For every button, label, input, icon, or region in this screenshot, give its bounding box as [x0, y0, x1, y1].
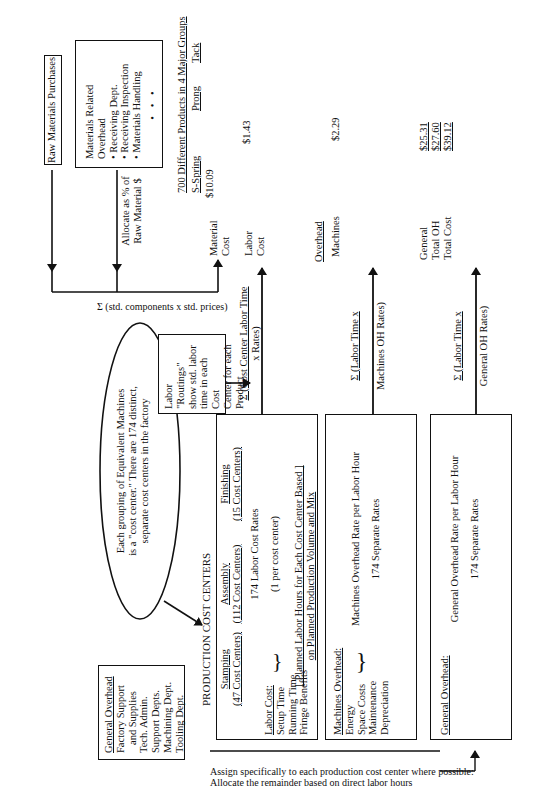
- total-label-total-cost: Total Cost: [442, 217, 454, 260]
- labor-flow-label: Σ (Cost Center Labor Time x Rates): [238, 281, 262, 406]
- general-overhead-item: and Supplies: [127, 672, 139, 753]
- total-value-total-oh: $27.60: [430, 122, 442, 151]
- raw-materials-box: Raw Materials Purchases: [44, 55, 62, 165]
- routings-line: show std. labor: [187, 339, 199, 409]
- sum-materials-label: Σ (std. components x std. prices): [97, 301, 228, 312]
- labor-label-2: Cost: [255, 231, 267, 256]
- general-overhead-item: Tooling Dept.: [174, 672, 186, 753]
- products-heading: 700 Different Products in 4 Major Groups: [176, 16, 188, 193]
- dept-name: Stamping: [219, 629, 231, 709]
- material-cost-value: $10.09: [204, 169, 216, 198]
- routings-line: time in each Cost: [198, 339, 222, 409]
- group-prong: Prong: [190, 86, 202, 111]
- machines-flow-label: Σ (Labor Time x Machines OH Rates): [375, 301, 387, 391]
- brace-icon: }: [272, 649, 283, 674]
- material-label-1: Material: [208, 220, 220, 256]
- routings-line: Center for each: [222, 339, 234, 409]
- row-label-material-cost: Material Cost: [208, 220, 232, 256]
- row-label-machines: Machines: [330, 216, 342, 257]
- assign-note: Assign specifically to each production c…: [210, 766, 474, 788]
- general-overhead-item: Tech. Admin.: [138, 672, 150, 753]
- general-rate-label: General Overhead Rate per Labor Hour 174…: [449, 439, 481, 639]
- machines-flow-line1: Σ (Labor Time x: [349, 301, 361, 391]
- totals-values: $25.31 $27.60 $39.12: [418, 122, 453, 151]
- raw-materials-title: Raw Materials Purchases: [46, 56, 58, 164]
- labor-flow-line1: Σ (Cost Center Labor Time: [238, 281, 250, 406]
- ellipse-line: is a "cost center." There are 174 distin…: [127, 341, 139, 601]
- labor-rate-label: 174 Labor Cost Rates (1 per cost center): [249, 489, 281, 619]
- materials-overhead-item: • Receiving Inspection: [119, 49, 131, 159]
- general-flow-line1: Σ (Labor Time x: [452, 301, 464, 391]
- labor-label-1: Labor: [243, 231, 255, 256]
- general-rate-line2: 174 Separate Rates: [469, 439, 481, 639]
- brace-icon: }: [356, 648, 368, 675]
- allocate-label-line1: Allocate as % of: [120, 171, 132, 251]
- allocate-label: Allocate as % of Raw Material $: [120, 171, 144, 251]
- machines-overhead-title: Machines Overhead:: [332, 648, 344, 735]
- ellipse-note: Each grouping of Equivalent Machines is …: [115, 341, 150, 601]
- routings-line: Labor "Routings": [163, 339, 187, 409]
- material-label-2: Cost: [220, 220, 232, 256]
- labor-rate-line1: 174 Labor Cost Rates: [249, 489, 261, 619]
- ellipsis: • • •: [147, 49, 159, 159]
- planned-line1: [ Planned Labor Hours for Each Cost Cent…: [293, 413, 305, 739]
- general-overhead-rate-box: General Overhead: General Overhead Rate …: [430, 414, 512, 740]
- general-overhead-item: Factory Support: [115, 672, 127, 753]
- general-overhead-source-box: General Overhead Factory Support and Sup…: [98, 665, 185, 760]
- cost-flow-diagram: Raw Materials Purchases Materials Relate…: [0, 0, 537, 791]
- dept-stamping: Stamping (47 Cost Centers): [219, 629, 243, 709]
- machines-overhead-item: Energy: [344, 648, 356, 735]
- sum-materials-text: Σ (std. components x std. prices): [97, 301, 228, 312]
- ellipse-line: Each grouping of Equivalent Machines: [115, 341, 127, 601]
- materials-overhead-box: Materials Related Overhead • Receiving D…: [75, 40, 163, 168]
- labor-flow-line2: x Rates): [250, 281, 262, 406]
- labor-cost-value: $1.43: [241, 120, 253, 144]
- row-label-labor-cost: Labor Cost: [243, 231, 267, 256]
- general-overhead-item: Machining Dept.: [162, 672, 174, 753]
- assign-note-line2: Allocate the remainder based on direct l…: [210, 777, 474, 788]
- group-s-spring: S-Spring: [190, 156, 202, 193]
- materials-overhead-item: • Materials Handling: [131, 49, 143, 159]
- machines-rate-label: Machines Overhead Rate per Labor Hour 17…: [350, 439, 382, 639]
- total-label-total-oh: Total OH: [430, 217, 442, 260]
- planned-labor-hours: [ Planned Labor Hours for Each Cost Cent…: [293, 413, 317, 739]
- labor-cost-title: Labor Cost:: [263, 670, 275, 735]
- machines-rate-line1: Machines Overhead Rate per Labor Hour: [350, 439, 362, 639]
- dept-count: (15 Cost Centers): [231, 439, 243, 529]
- dept-finishing: Finishing (15 Cost Centers): [219, 439, 243, 529]
- ellipse-line: separate cost centers in the factory: [139, 341, 151, 601]
- machines-overhead-item: Maintenance: [367, 648, 379, 735]
- machines-overhead-box: Machines Overhead: Energy Space Costs Ma…: [325, 414, 417, 740]
- machines-flow-line2: Machines OH Rates): [375, 301, 387, 391]
- materials-overhead-title: Materials Related Overhead: [84, 49, 108, 159]
- labor-routings-box: Labor "Routings" show std. labor time in…: [158, 334, 226, 414]
- assign-note-line1: Assign specifically to each production c…: [210, 766, 474, 777]
- group-tack: Tack: [190, 43, 202, 63]
- machines-rate-line2: 174 Separate Rates: [370, 439, 382, 639]
- dept-name: Finishing: [219, 439, 231, 529]
- general-flow-line2: General OH Rates): [478, 301, 490, 391]
- labor-cost-box: Stamping (47 Cost Centers) Assembly (112…: [216, 414, 318, 740]
- total-value-total-cost: $39.12: [442, 122, 454, 151]
- labor-cost-item: Setup Time: [275, 670, 287, 735]
- dept-name: Assembly: [219, 539, 231, 629]
- materials-overhead-item: • Receiving Dept.: [108, 49, 120, 159]
- row-label-overhead: Overhead: [313, 221, 325, 262]
- machines-overhead-item: Depreciation: [379, 648, 391, 735]
- planned-line2: on Planned Production Volume and Mix: [305, 413, 317, 739]
- machines-value: $2.29: [330, 117, 342, 141]
- labor-rate-line2: (1 per cost center): [269, 489, 281, 619]
- production-cost-centers-title: PRODUCTION COST CENTERS: [200, 553, 212, 706]
- totals-labels: General Total OH Total Cost: [418, 217, 453, 260]
- general-overhead-title: General Overhead: [103, 672, 115, 753]
- general-overhead-rate-title: General Overhead:: [439, 655, 451, 735]
- total-value-general: $25.31: [418, 122, 430, 151]
- dept-count: (112 Cost Centers): [231, 539, 243, 629]
- general-flow-label: Σ (Labor Time x General OH Rates): [478, 301, 490, 391]
- dept-assembly: Assembly (112 Cost Centers): [219, 539, 243, 629]
- general-overhead-item: Support Depts.: [150, 672, 162, 753]
- general-rate-line1: General Overhead Rate per Labor Hour: [449, 439, 461, 639]
- total-label-general: General: [418, 217, 430, 260]
- allocate-label-line2: Raw Material $: [132, 171, 144, 251]
- dept-count: (47 Cost Centers): [231, 629, 243, 709]
